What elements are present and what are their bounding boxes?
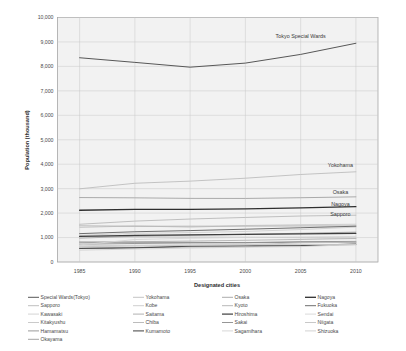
y-tick-label: 7,000 — [41, 88, 54, 94]
annotation-osaka: Osaka — [333, 189, 349, 195]
y-axis-title: Population (thousand) — [24, 110, 30, 169]
legend-label: Kumamoto — [146, 328, 171, 334]
x-tick-label: 1985 — [74, 268, 86, 274]
legend-label: Fukuoka — [318, 302, 338, 308]
x-tick-label: 1990 — [129, 268, 141, 274]
y-tick-label: 2,000 — [41, 210, 54, 216]
chart-page: 01,0002,0003,0004,0005,0006,0007,0008,00… — [0, 0, 406, 351]
y-tick-label: 10,000 — [38, 14, 54, 20]
y-tick-label: 5,000 — [41, 137, 54, 143]
y-tick-label: 1,000 — [41, 234, 54, 240]
legend-label: Kawasaki — [41, 311, 63, 317]
x-tick-label: 2010 — [350, 268, 362, 274]
population-line-chart: 01,0002,0003,0004,0005,0006,0007,0008,00… — [0, 0, 406, 351]
annotation-tokyo-special-wards: Tokyo Special Wards — [276, 33, 326, 39]
legend-label: Nagoya — [318, 294, 336, 300]
x-axis-title: Designated cities — [194, 282, 240, 288]
legend-label: Kyoto — [235, 302, 248, 308]
legend-label: Hiroshima — [235, 311, 258, 317]
legend-label: Yokohama — [146, 294, 170, 300]
x-tick-label: 1995 — [184, 268, 196, 274]
x-tick-label: 2000 — [240, 268, 252, 274]
legend-label: Sendai — [318, 311, 334, 317]
legend-label: Special Wards(Tokyo) — [41, 294, 91, 300]
y-tick-label: 6,000 — [41, 112, 54, 118]
y-tick-label: 4,000 — [41, 161, 54, 167]
y-tick-label: 8,000 — [41, 63, 54, 69]
legend-label: Osaka — [235, 294, 250, 300]
legend-label: Saitama — [146, 311, 165, 317]
legend-label: Kitakyushu — [41, 319, 66, 325]
annotation-nagoya: Nagoya — [331, 201, 350, 207]
legend-label: Niigata — [318, 319, 334, 325]
legend-label: Sapporo — [41, 302, 60, 308]
legend-label: Chiba — [146, 319, 159, 325]
legend-label: Hamamatsu — [41, 328, 69, 334]
legend-label: Sakai — [235, 319, 248, 325]
legend-label: Kobe — [146, 302, 158, 308]
annotation-yokohama: Yokohama — [328, 162, 353, 168]
y-tick-label: 3,000 — [41, 186, 54, 192]
legend-label: Sagamihara — [235, 328, 263, 334]
y-tick-label: 9,000 — [41, 39, 54, 45]
x-tick-label: 2005 — [295, 268, 307, 274]
y-tick-label: 0 — [51, 259, 54, 265]
legend-label: Shizuoka — [318, 328, 339, 334]
legend-label: Okayama — [41, 336, 63, 342]
annotation-sapporo: Sapporo — [330, 211, 350, 217]
